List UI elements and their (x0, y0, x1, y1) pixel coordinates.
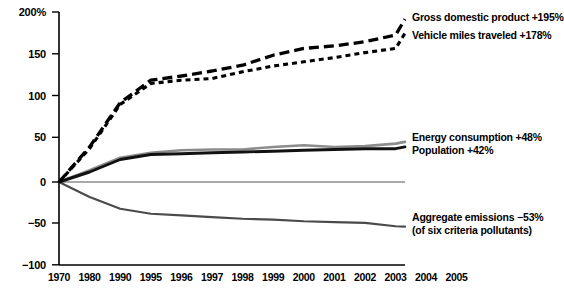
y-tick-label-200: 200% (2, 6, 46, 18)
series-line-vehicle-miles-traveled (59, 33, 405, 182)
y-tick-label-50: 50 (2, 131, 46, 143)
y-tick-label-0: 0 (2, 176, 46, 188)
y-axis-ticks (52, 12, 59, 265)
series-sublabel-aggregate-emissions: (of six criteria pollutants) (412, 224, 532, 237)
series-label-population: Population +42% (412, 144, 493, 157)
chart-container: 200% 150 100 50 0 −50 −100 1970 1980 199… (0, 0, 564, 293)
y-tick-label-100: 100 (2, 90, 46, 102)
series-label-energy-consumption: Energy consumption +48% (412, 131, 542, 144)
series-line-gross-domestic-product (59, 19, 405, 182)
series-label-vehicle-miles-traveled: Vehicle miles traveled +178% (412, 29, 551, 42)
series-label-aggregate-emissions: Aggregate emissions −53% (412, 211, 543, 224)
x-tick-label-2005: 2005 (437, 271, 477, 283)
y-tick-label-150: 150 (2, 48, 46, 60)
y-tick-label-neg50: −50 (2, 217, 46, 229)
series-line-aggregate-emissions (59, 182, 405, 227)
series-label-gross-domestic-product: Gross domestic product +195% (412, 11, 564, 24)
y-tick-label-neg100: −100 (2, 259, 46, 271)
series-line-population (59, 147, 405, 182)
